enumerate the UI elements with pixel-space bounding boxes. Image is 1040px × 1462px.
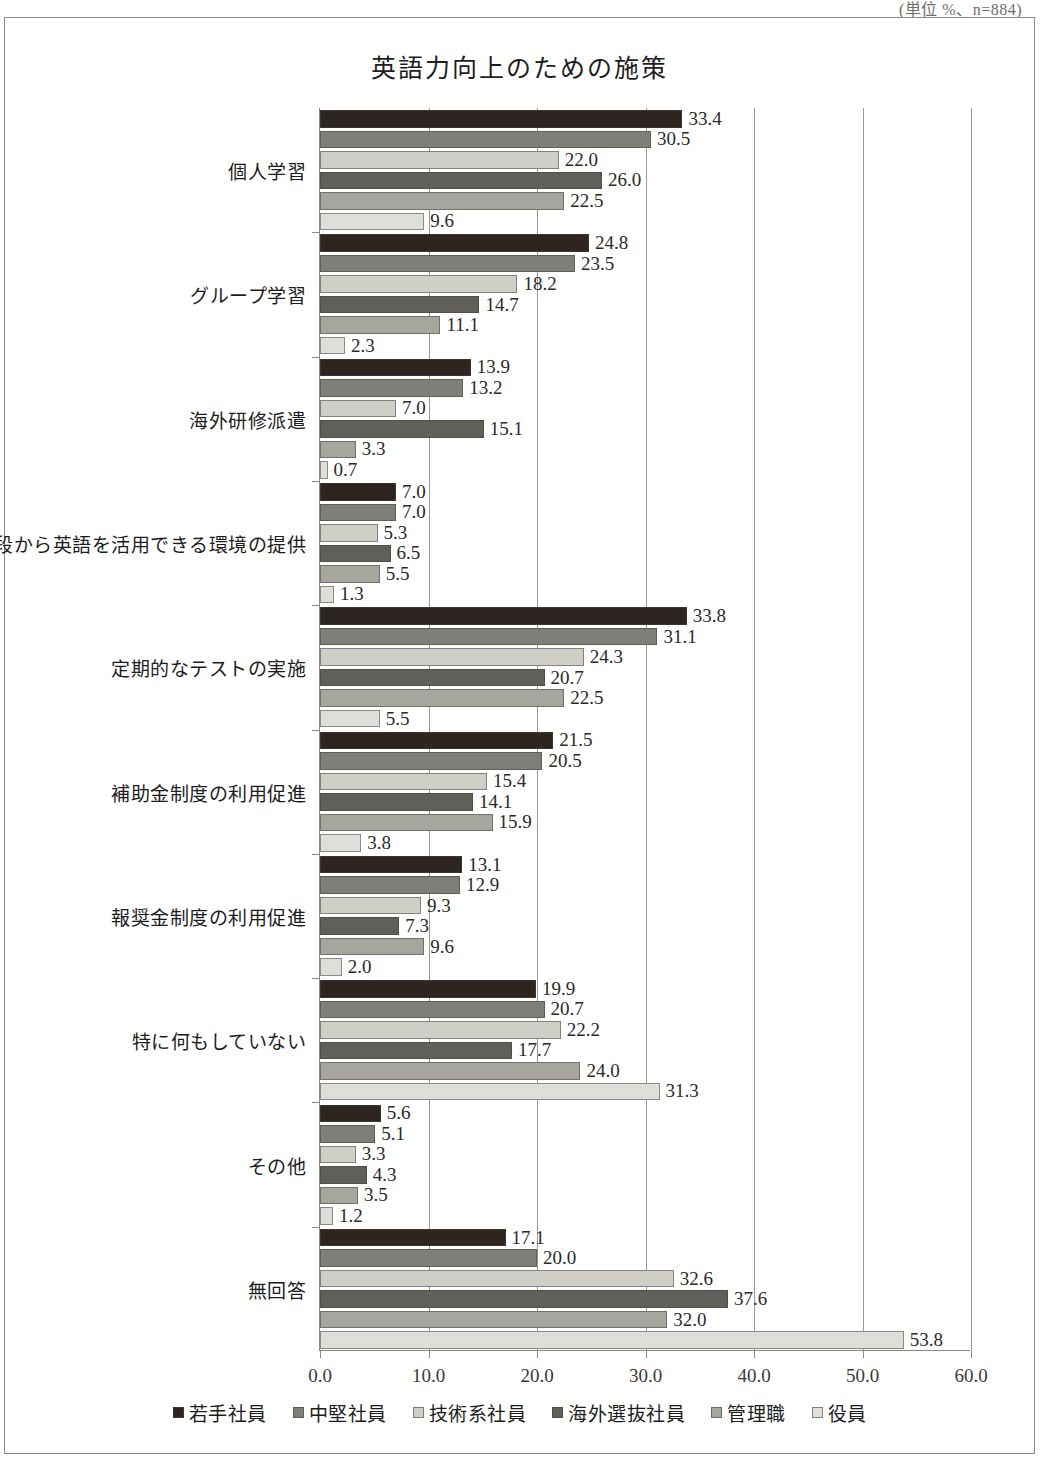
bar-value-label: 26.0 bbox=[608, 169, 641, 191]
bar[interactable]: 20.7 bbox=[320, 669, 545, 687]
legend-item[interactable]: 管理職 bbox=[711, 1399, 786, 1426]
bar[interactable]: 6.5 bbox=[320, 545, 391, 563]
bar[interactable]: 17.7 bbox=[320, 1042, 512, 1060]
x-tick-label: 60.0 bbox=[954, 1365, 987, 1387]
bar[interactable]: 37.6 bbox=[320, 1290, 728, 1308]
bar-value-label: 24.0 bbox=[586, 1060, 619, 1082]
legend-swatch-icon bbox=[812, 1407, 823, 1418]
bar[interactable]: 15.9 bbox=[320, 814, 493, 832]
bar[interactable]: 13.1 bbox=[320, 856, 462, 874]
bar[interactable]: 12.9 bbox=[320, 876, 460, 894]
legend-label: 海外選抜社員 bbox=[568, 1399, 685, 1426]
bar-value-label: 20.7 bbox=[551, 667, 584, 689]
category-label: 海外研修派遣 bbox=[189, 405, 306, 432]
bar[interactable]: 2.0 bbox=[320, 958, 342, 976]
bar[interactable]: 24.8 bbox=[320, 234, 589, 252]
bar-value-label: 19.9 bbox=[542, 978, 575, 1000]
bar-row: 33.4 bbox=[320, 110, 970, 128]
bar[interactable]: 9.6 bbox=[320, 213, 424, 231]
plot-area: 0.010.020.030.040.050.060.0個人学習33.430.52… bbox=[319, 108, 970, 1351]
legend-label: 技術系社員 bbox=[429, 1399, 527, 1426]
bar[interactable]: 33.4 bbox=[320, 110, 682, 128]
bar[interactable]: 17.1 bbox=[320, 1229, 506, 1247]
bar[interactable]: 53.8 bbox=[320, 1331, 904, 1349]
bar[interactable]: 7.0 bbox=[320, 400, 396, 418]
bar[interactable]: 20.7 bbox=[320, 1001, 545, 1019]
bar[interactable]: 9.3 bbox=[320, 897, 421, 915]
bar[interactable]: 32.6 bbox=[320, 1270, 674, 1288]
bar[interactable]: 0.7 bbox=[320, 461, 328, 479]
bar[interactable]: 1.2 bbox=[320, 1207, 333, 1225]
bar-group: 海外研修派遣13.913.27.015.13.30.7 bbox=[320, 357, 970, 481]
legend-item[interactable]: 中堅社員 bbox=[293, 1399, 387, 1426]
bar[interactable]: 13.2 bbox=[320, 379, 463, 397]
bar[interactable]: 20.5 bbox=[320, 752, 542, 770]
bar[interactable]: 22.0 bbox=[320, 151, 559, 169]
bar[interactable]: 5.1 bbox=[320, 1125, 375, 1143]
bar-row: 13.2 bbox=[320, 379, 970, 397]
bar-value-label: 2.3 bbox=[351, 335, 375, 357]
bar[interactable]: 9.6 bbox=[320, 938, 424, 956]
bar[interactable]: 5.5 bbox=[320, 710, 380, 728]
bar-row: 20.7 bbox=[320, 1001, 970, 1019]
legend-item[interactable]: 海外選抜社員 bbox=[552, 1399, 685, 1426]
bar[interactable]: 23.5 bbox=[320, 255, 575, 273]
bar[interactable]: 4.3 bbox=[320, 1166, 367, 1184]
bar[interactable]: 15.4 bbox=[320, 773, 487, 791]
legend-item[interactable]: 役員 bbox=[812, 1399, 867, 1426]
bar-value-label: 18.2 bbox=[523, 273, 556, 295]
bar[interactable]: 5.3 bbox=[320, 524, 378, 542]
bar[interactable]: 33.8 bbox=[320, 607, 687, 625]
bar[interactable]: 15.1 bbox=[320, 420, 484, 438]
legend-label: 若手社員 bbox=[189, 1399, 267, 1426]
bar[interactable]: 3.3 bbox=[320, 1146, 356, 1164]
category-label: その他 bbox=[248, 1151, 307, 1178]
bar[interactable]: 3.5 bbox=[320, 1187, 358, 1205]
bar[interactable]: 5.6 bbox=[320, 1105, 381, 1123]
bar-value-label: 32.0 bbox=[673, 1309, 706, 1331]
bar[interactable]: 1.3 bbox=[320, 586, 334, 604]
legend-item[interactable]: 若手社員 bbox=[173, 1399, 267, 1426]
bar[interactable]: 7.3 bbox=[320, 917, 399, 935]
bar[interactable]: 14.7 bbox=[320, 296, 479, 314]
bar-row: 15.1 bbox=[320, 420, 970, 438]
bar-group: 定期的なテストの実施33.831.124.320.722.55.5 bbox=[320, 605, 970, 729]
legend-item[interactable]: 技術系社員 bbox=[413, 1399, 527, 1426]
bar-row: 3.5 bbox=[320, 1187, 970, 1205]
bar[interactable]: 26.0 bbox=[320, 172, 602, 190]
bar[interactable]: 11.1 bbox=[320, 316, 440, 334]
bar[interactable]: 19.9 bbox=[320, 980, 536, 998]
bar[interactable]: 24.0 bbox=[320, 1062, 580, 1080]
bar-row: 9.3 bbox=[320, 897, 970, 915]
bar[interactable]: 18.2 bbox=[320, 275, 517, 293]
bar[interactable]: 3.3 bbox=[320, 441, 356, 459]
bar-row: 17.7 bbox=[320, 1042, 970, 1060]
legend-swatch-icon bbox=[711, 1407, 722, 1418]
bar[interactable]: 7.0 bbox=[320, 483, 396, 501]
bar[interactable]: 3.8 bbox=[320, 834, 361, 852]
bar-value-label: 9.6 bbox=[430, 936, 454, 958]
bar-group: 無回答17.120.032.637.632.053.8 bbox=[320, 1227, 970, 1351]
bar-row: 11.1 bbox=[320, 316, 970, 334]
category-tick bbox=[312, 730, 320, 731]
bar[interactable]: 14.1 bbox=[320, 793, 473, 811]
bar[interactable]: 21.5 bbox=[320, 732, 553, 750]
bar[interactable]: 22.2 bbox=[320, 1021, 561, 1039]
bar-value-label: 20.5 bbox=[548, 750, 581, 772]
bar-row: 5.3 bbox=[320, 524, 970, 542]
bar[interactable]: 5.5 bbox=[320, 565, 380, 583]
category-label: 特に何もしていない bbox=[132, 1027, 307, 1054]
bar[interactable]: 32.0 bbox=[320, 1311, 667, 1329]
bar[interactable]: 24.3 bbox=[320, 648, 584, 666]
bar[interactable]: 31.3 bbox=[320, 1083, 660, 1101]
bar[interactable]: 13.9 bbox=[320, 359, 471, 377]
bar[interactable]: 2.3 bbox=[320, 337, 345, 355]
bar[interactable]: 20.0 bbox=[320, 1249, 537, 1267]
bar[interactable]: 22.5 bbox=[320, 192, 564, 210]
bar[interactable]: 22.5 bbox=[320, 689, 564, 707]
bar[interactable]: 31.1 bbox=[320, 628, 657, 646]
bar-row: 15.9 bbox=[320, 814, 970, 832]
x-tick-mark bbox=[863, 1351, 864, 1358]
bar[interactable]: 7.0 bbox=[320, 504, 396, 522]
bar[interactable]: 30.5 bbox=[320, 131, 651, 149]
